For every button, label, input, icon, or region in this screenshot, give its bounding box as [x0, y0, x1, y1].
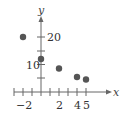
y-axis-label: y	[37, 4, 45, 17]
x-axis-label: x	[113, 86, 120, 99]
scatter-plot: −2 2 4 5 10 20 x y	[0, 0, 132, 129]
data-point	[38, 56, 44, 62]
data-point	[74, 74, 80, 80]
x-tick-label-2: 2	[56, 99, 63, 112]
x-tick-label-5: 5	[83, 99, 90, 112]
y-tick-label-10: 10	[26, 59, 40, 72]
x-axis-arrow-icon	[106, 90, 112, 95]
x-tick-label-4: 4	[74, 99, 81, 112]
data-point	[56, 65, 62, 71]
y-tick-label-20: 20	[47, 31, 61, 44]
data-point	[20, 34, 26, 40]
x-tick-label-neg2: −2	[16, 99, 32, 112]
data-point	[83, 76, 89, 82]
